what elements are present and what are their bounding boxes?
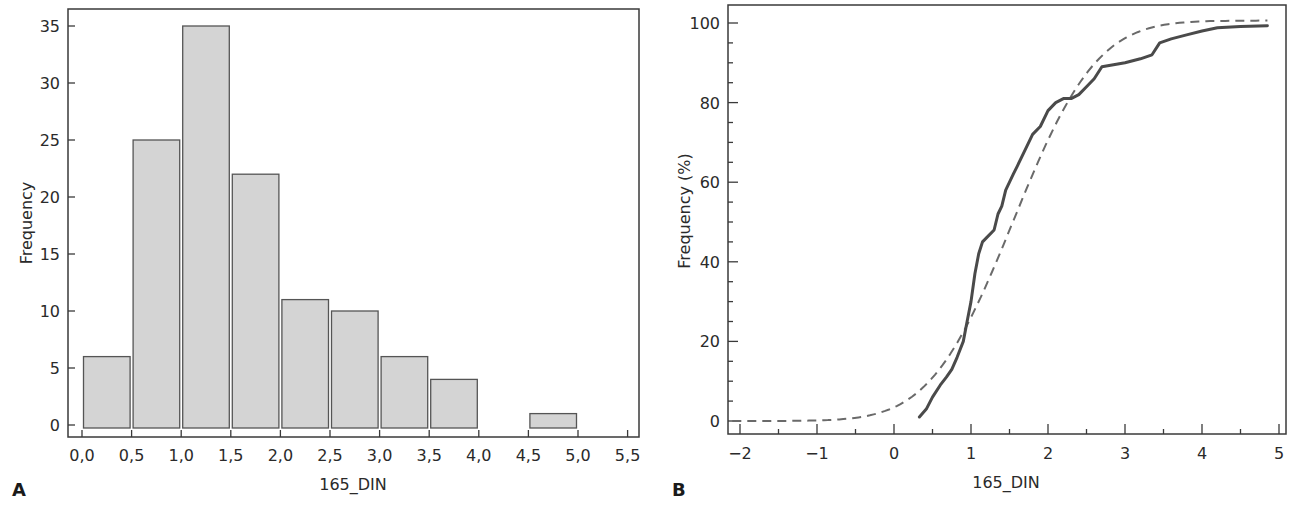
y-axis-title-a: Frequency [17, 182, 36, 265]
x-tick-label: 0 [889, 444, 899, 463]
histogram-bar [530, 414, 577, 428]
x-tick-label: 1,0 [168, 446, 193, 465]
x-axis-ticks-a: 0,00,51,01,52,02,53,03,54,04,55,05,5 [69, 430, 640, 465]
y-tick-label: 20 [40, 188, 60, 207]
x-tick-label: 3,5 [416, 446, 441, 465]
y-axis-title-b: Frequency (%) [675, 153, 694, 268]
histogram-bar [381, 357, 428, 428]
x-tick-label: −2 [728, 444, 752, 463]
x-tick-label: 5 [1274, 444, 1284, 463]
x-axis-title-b: 165_DIN [972, 473, 1040, 493]
y-tick-label: 20 [700, 332, 720, 351]
y-tick-label: 10 [40, 302, 60, 321]
y-tick-label: 0 [710, 412, 720, 431]
y-tick-label: 15 [40, 245, 60, 264]
y-tick-label: 35 [40, 17, 60, 36]
y-tick-label: 30 [40, 74, 60, 93]
x-tick-label: 4,0 [466, 446, 491, 465]
y-tick-label: 5 [50, 359, 60, 378]
x-axis-title-a: 165_DIN [319, 475, 387, 495]
y-tick-label: 60 [700, 173, 720, 192]
empirical-cdf-solid-line [919, 26, 1267, 417]
histogram-bar [332, 311, 379, 428]
y-tick-label: 40 [700, 253, 720, 272]
cumulative-panel-b: −2−1012345 020406080100 165_DIN Frequenc… [672, 5, 1286, 500]
histogram-bar [84, 357, 131, 428]
histogram-bar [431, 379, 478, 428]
x-tick-label: 0,0 [69, 446, 94, 465]
y-tick-label: 80 [700, 94, 720, 113]
histogram-bar [232, 174, 279, 428]
y-tick-label: 100 [689, 14, 720, 33]
x-tick-label: 4 [1197, 444, 1207, 463]
x-tick-label: 2 [1043, 444, 1053, 463]
histogram-panel-a: 0,00,51,01,52,02,53,03,54,04,55,05,5 051… [12, 9, 640, 500]
histogram-bar [133, 140, 180, 428]
x-tick-label: 5,5 [615, 446, 640, 465]
y-tick-label: 25 [40, 131, 60, 150]
y-axis-ticks-b: 020406080100 [689, 14, 738, 431]
x-tick-label: 1 [966, 444, 976, 463]
histogram-bars [84, 26, 577, 428]
x-tick-label: 5,0 [565, 446, 590, 465]
x-tick-label: 4,5 [516, 446, 541, 465]
histogram-bar [183, 26, 230, 428]
x-axis-ticks-b: −2−1012345 [728, 424, 1284, 463]
plot-frame-b [728, 5, 1286, 434]
x-tick-label: 2,0 [268, 446, 293, 465]
figure: 0,00,51,01,52,02,53,03,54,04,55,05,5 051… [0, 0, 1291, 507]
x-tick-label: 0,5 [119, 446, 144, 465]
y-tick-label: 0 [50, 416, 60, 435]
panel-label-a: A [12, 479, 26, 500]
panel-label-b: B [672, 479, 686, 500]
histogram-bar [282, 300, 329, 428]
y-axis-ticks-a: 05101520253035 [40, 17, 75, 435]
x-tick-label: 1,5 [218, 446, 243, 465]
x-tick-label: 3 [1120, 444, 1130, 463]
x-tick-label: −1 [805, 444, 829, 463]
normal-cdf-dashed-line [732, 21, 1267, 421]
x-tick-label: 2,5 [317, 446, 342, 465]
x-tick-label: 3,0 [367, 446, 392, 465]
